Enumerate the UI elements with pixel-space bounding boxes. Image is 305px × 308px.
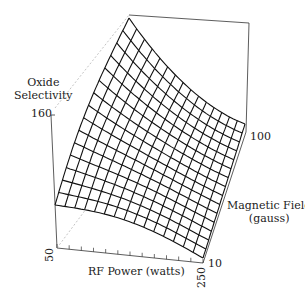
y-tick-100: 100 (250, 130, 271, 143)
z-axis-label: Oxide Selectivity (14, 76, 73, 102)
z-tick-160: 160 (31, 107, 52, 120)
x-axis-ticks (57, 244, 203, 263)
y-axis-label: Magnetic Field (gauss) (227, 199, 305, 225)
x-tick-50: 50 (43, 248, 56, 262)
x-axis-label: RF Power (watts) (88, 265, 185, 278)
x-tick-250: 250 (195, 267, 208, 288)
y-tick-10: 10 (208, 257, 222, 270)
